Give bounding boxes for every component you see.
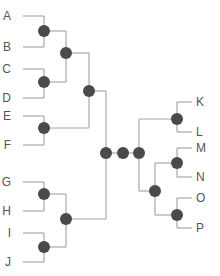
tree-nodes <box>38 25 183 253</box>
node-ghij <box>60 213 72 225</box>
node-root <box>117 147 129 159</box>
node-gh <box>38 188 50 200</box>
leaf-label-l: L <box>196 125 203 139</box>
leaf-labels: ABCDEFGHIJKLMNOP <box>2 9 206 269</box>
tree-edges <box>23 16 192 262</box>
node-ij <box>38 241 50 253</box>
leaf-label-n: N <box>196 170 205 184</box>
leaf-label-g: G <box>2 175 11 189</box>
dendrogram: ABCDEFGHIJKLMNOP <box>0 0 220 276</box>
node-mn <box>171 157 183 169</box>
leaf-label-d: D <box>2 91 11 105</box>
node-kl <box>171 113 183 125</box>
leaf-label-h: H <box>2 204 11 218</box>
node-cd <box>38 76 50 88</box>
leaf-label-j: J <box>5 255 11 269</box>
leaf-label-a: A <box>3 9 11 23</box>
leaf-label-e: E <box>3 109 11 123</box>
node-abcdef <box>83 85 95 97</box>
leaf-label-p: P <box>196 221 204 235</box>
node-left <box>100 147 112 159</box>
leaf-label-f: F <box>4 138 11 152</box>
node-right <box>133 147 145 159</box>
node-abcd <box>60 47 72 59</box>
node-op <box>171 209 183 221</box>
node-mnop <box>149 185 161 197</box>
leaf-label-b: B <box>3 40 11 54</box>
node-ab <box>38 25 50 37</box>
node-ef <box>38 122 50 134</box>
leaf-label-k: K <box>196 95 204 109</box>
leaf-label-i: I <box>8 226 11 240</box>
leaf-label-c: C <box>2 62 11 76</box>
leaf-label-o: O <box>196 191 205 205</box>
leaf-label-m: M <box>196 141 206 155</box>
